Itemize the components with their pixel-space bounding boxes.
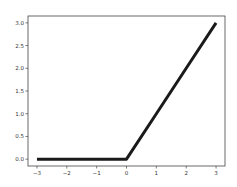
- chart: −3−2−10123 0.00.51.01.52.02.53.0: [0, 0, 237, 187]
- y-axis: 0.00.51.01.52.02.53.0: [15, 20, 28, 162]
- x-axis: −3−2−10123: [33, 166, 218, 176]
- y-tick-label: 0.5: [15, 133, 24, 139]
- x-tick-label: 2: [184, 170, 188, 176]
- y-tick-label: 0.0: [15, 156, 24, 162]
- x-tick-label: −1: [93, 170, 101, 176]
- x-tick-label: −2: [63, 170, 71, 176]
- x-tick-label: 1: [155, 170, 159, 176]
- plot-area: [28, 16, 225, 166]
- y-tick-label: 2.0: [15, 65, 24, 71]
- x-tick-label: −3: [33, 170, 42, 176]
- y-tick-label: 1.5: [15, 88, 24, 94]
- y-tick-label: 3.0: [15, 20, 24, 26]
- x-tick-label: 3: [214, 170, 218, 176]
- y-tick-label: 2.5: [15, 43, 24, 49]
- y-tick-label: 1.0: [15, 111, 24, 117]
- x-tick-label: 0: [125, 170, 129, 176]
